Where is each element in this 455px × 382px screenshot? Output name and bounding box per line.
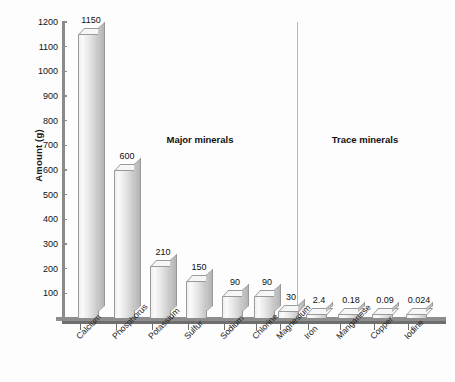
bar-value-label: 0.024: [408, 295, 431, 305]
bar-value-label: 600: [119, 151, 134, 161]
x-category-label: Iron: [302, 324, 320, 342]
y-tick-mark: [62, 21, 67, 23]
bar-side-face: [242, 283, 249, 311]
y-tick-label: 1000: [28, 66, 58, 76]
bar-value-label: 0.09: [376, 295, 394, 305]
y-tick-mark: [62, 46, 67, 48]
group-label-trace: Trace minerals: [332, 134, 399, 145]
bar-side-face: [274, 283, 281, 311]
y-tick-label: 500: [28, 190, 58, 200]
y-tick-mark: [62, 95, 67, 97]
y-tick-label: 800: [28, 116, 58, 126]
bar-value-label: 2.4: [313, 295, 326, 305]
bar-value-label: 150: [191, 262, 206, 272]
group-label-major: Major minerals: [166, 134, 233, 145]
bar-chart: Amount (g) 10020030040050060070080090010…: [0, 0, 455, 382]
y-tick-mark: [62, 219, 67, 221]
y-tick-label: 300: [28, 239, 58, 249]
y-tick-mark: [62, 194, 67, 196]
bar-value-label: 30: [286, 292, 296, 302]
y-tick-label: 200: [28, 264, 58, 274]
y-tick-mark: [62, 71, 67, 73]
y-tick-label: 700: [28, 140, 58, 150]
bar: [306, 314, 327, 318]
y-tick-mark: [62, 169, 67, 171]
y-tick-label: 1100: [28, 42, 58, 52]
group-divider-line: [297, 22, 298, 318]
y-tick-label: 100: [28, 288, 58, 298]
bar-side-face: [134, 158, 141, 312]
bar: [114, 170, 135, 318]
y-tick-label: 600: [28, 165, 58, 175]
y-tick-label: 1200: [28, 17, 58, 27]
bar: [186, 281, 207, 318]
bar: [150, 266, 171, 318]
bar-value-label: 0.18: [342, 295, 360, 305]
y-tick-label: 900: [28, 91, 58, 101]
bar-side-face: [170, 254, 177, 312]
bar-side-face: [98, 22, 105, 312]
bar-value-label: 210: [155, 247, 170, 257]
y-tick-mark: [62, 243, 67, 245]
bar: [78, 34, 99, 318]
bar-side-face: [206, 269, 213, 312]
bar-value-label: 90: [230, 277, 240, 287]
bar-value-label: 1150: [81, 15, 100, 25]
y-tick-mark: [62, 145, 67, 147]
y-tick-mark: [62, 293, 67, 295]
bar: [406, 314, 427, 318]
y-tick-mark: [62, 268, 67, 270]
y-axis-line: [62, 22, 65, 322]
y-tick-label: 400: [28, 214, 58, 224]
bar-value-label: 90: [262, 277, 272, 287]
y-tick-mark: [62, 120, 67, 122]
